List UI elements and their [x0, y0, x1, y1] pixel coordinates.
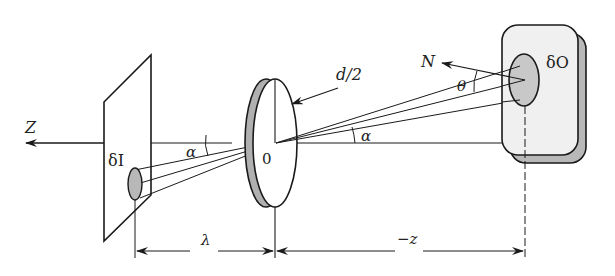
image-angle-arc — [205, 135, 208, 156]
normal-label: N — [420, 52, 436, 71]
image-plane — [104, 55, 151, 241]
axis-label-z: Z — [24, 118, 37, 137]
object-distance-label: −z — [397, 230, 418, 248]
image-element — [128, 168, 142, 200]
image-angle-label: α — [186, 143, 196, 161]
tilt-angle-arc — [474, 71, 477, 92]
tilt-angle-label: θ — [457, 77, 466, 95]
object-ray-cone — [276, 66, 520, 143]
image-element-label: δI — [108, 151, 124, 170]
image-distance-label: λ — [200, 231, 211, 249]
lens-radius-label: d/2 — [336, 65, 362, 84]
optics-diagram: Z α δI 0 d/2 α δO — [0, 0, 615, 276]
object-element-label: δO — [546, 53, 569, 72]
image-ray-cone — [135, 145, 258, 198]
lens — [245, 79, 297, 258]
lens-radius-arrow — [292, 88, 338, 104]
lens-center-label: 0 — [262, 150, 272, 168]
object-angle-label: α — [361, 127, 371, 145]
